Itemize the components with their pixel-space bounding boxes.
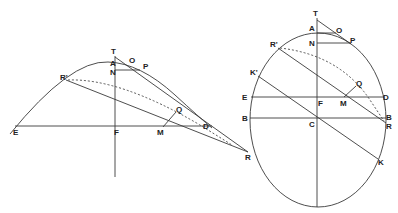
label-R: R (245, 153, 251, 162)
label-F: F (318, 99, 323, 108)
label-Q: Q (356, 79, 362, 88)
dotted-curve (68, 80, 232, 145)
chord-RprimeR (278, 48, 386, 123)
geometry-diagram: T A N O P R' Q E F M D R T A O P N R' K'… (0, 0, 398, 213)
ellipse-curve (250, 33, 386, 207)
label-A: A (110, 59, 116, 68)
label-B-right: B (386, 113, 392, 122)
label-C: C (309, 120, 315, 129)
label-E: E (242, 93, 248, 102)
label-Q: Q (176, 105, 182, 114)
ellipse-figure: T A O P N R' K' Q E F M D B C B R K (242, 9, 392, 207)
label-R-prime: R' (270, 40, 278, 49)
label-D: D (383, 93, 389, 102)
label-F: F (114, 128, 119, 137)
label-O: O (336, 26, 342, 35)
parabola-figure: T A N O P R' Q E F M D R (10, 47, 251, 177)
label-M: M (340, 99, 347, 108)
label-K-prime: K' (250, 68, 258, 77)
label-E: E (13, 128, 19, 137)
tangent-TO (317, 20, 351, 44)
label-B-left: B (242, 114, 248, 123)
line-MQ (344, 86, 356, 97)
label-M: M (157, 128, 164, 137)
label-R: R (386, 122, 392, 131)
label-T: T (111, 47, 116, 56)
label-P: P (350, 36, 356, 45)
label-P: P (143, 62, 149, 71)
diameter-KprimeK (258, 76, 378, 159)
chord-RprimeR (66, 80, 248, 152)
label-D: D (203, 122, 209, 131)
label-N: N (110, 68, 116, 77)
label-K: K (378, 158, 384, 167)
label-A: A (309, 24, 315, 33)
dotted-curve (280, 48, 384, 121)
label-O: O (129, 56, 135, 65)
label-T: T (313, 9, 318, 18)
label-N: N (309, 39, 315, 48)
label-R-prime: R' (60, 73, 68, 82)
